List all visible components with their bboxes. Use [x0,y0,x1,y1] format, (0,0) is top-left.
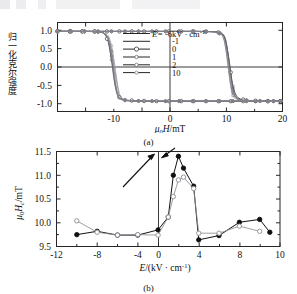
ytick-b-2: 10.5 [34,194,51,204]
ytick-a-1: 0.5 [40,44,52,54]
panel-a-xticklabels: -10 0 10 20 [107,114,287,124]
xtick-a-0: -10 [107,114,120,124]
panel-b-caption: (b) [143,283,154,293]
xtick-a-3: 20 [278,114,288,124]
legend-entry-5: 10 [172,68,181,78]
xtick-a-1: 0 [168,114,173,124]
panel-a-yticklabels: 1.0 0.5 0.0 -0.5 -1.0 [37,26,52,109]
panel-b: 11.5 11.0 10.5 10.0 9.5 -12 -8 -4 0 4 8 … [0,143,297,277]
panel-a-legend: E=-6kV · cm-1 -1 0 1 2 10 [123,28,205,78]
ytick-a-4: -1.0 [37,99,52,109]
panel-b-xticklabels: -12 -8 -4 0 4 8 10 [50,250,285,260]
panel-a-curves [56,30,283,103]
panel-a: 归一化克尔强度 [0,8,297,133]
panel-b-plot: 11.5 11.0 10.5 10.0 9.5 -12 -8 -4 0 4 8 … [0,143,297,277]
ytick-b-1: 11.0 [35,171,52,181]
xtick-b-6: 10 [275,250,285,260]
ytick-a-3: -0.5 [37,81,52,91]
panel-b-xlabel: E/(kV · cm-1) [138,262,190,274]
ytick-b-3: 10.0 [34,218,51,228]
panel-b-curves [75,154,272,242]
panel-a-ylabel: 归一化克尔强度 [6,32,19,95]
figure-root: 归一化克尔强度 [0,0,297,294]
ytick-a-0: 1.0 [40,26,52,36]
xtick-b-2: -4 [134,250,142,260]
xtick-b-3: 0 [156,250,161,260]
xtick-b-5: 8 [238,250,243,260]
xtick-a-2: 10 [222,114,232,124]
xtick-b-4: 4 [197,250,202,260]
ytick-b-0: 11.5 [35,147,52,157]
xtick-b-1: -8 [93,250,101,260]
panel-b-annotation-arrows [123,148,175,187]
panel-b-yticklabels: 11.5 11.0 10.5 10.0 9.5 [34,147,51,252]
ytick-a-2: 0.0 [40,62,52,72]
xtick-b-0: -12 [50,250,63,260]
panel-a-plot: 1.0 0.5 0.0 -0.5 -1.0 -10 0 10 20 [0,8,297,133]
panel-b-ylabel: μ0Hc/mT [14,186,25,221]
